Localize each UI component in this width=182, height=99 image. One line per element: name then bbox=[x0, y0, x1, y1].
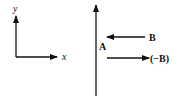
x-axis-label: x bbox=[61, 51, 67, 62]
vector-a-label: A bbox=[99, 41, 107, 52]
vector-diagram: y x A B (−B) bbox=[0, 0, 182, 99]
vector-neg-b-label: (−B) bbox=[150, 53, 169, 65]
vector-b: B bbox=[107, 32, 156, 43]
vector-a: A bbox=[96, 5, 107, 96]
coordinate-axes: y x bbox=[12, 3, 67, 62]
vector-neg-b: (−B) bbox=[107, 53, 169, 65]
y-axis-label: y bbox=[12, 3, 18, 14]
vector-b-label: B bbox=[149, 32, 156, 43]
